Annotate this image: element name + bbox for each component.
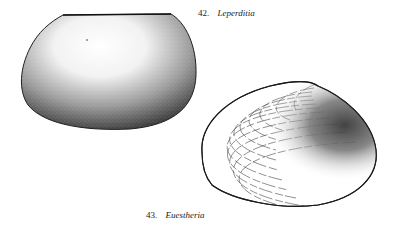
leperditia-shell	[21, 14, 196, 129]
illustration-canvas	[0, 0, 395, 229]
fossil-illustration-plate: 42. Leperditia 43. Euestheria	[0, 0, 395, 229]
figure-number: 42.	[198, 8, 209, 18]
euestheria-shell	[202, 82, 376, 213]
taxon-name: Leperditia	[218, 8, 255, 18]
caption-leperditia: 42. Leperditia	[198, 8, 255, 18]
taxon-name: Euestheria	[166, 210, 205, 220]
figure-number: 43.	[146, 210, 157, 220]
caption-euestheria: 43. Euestheria	[146, 210, 205, 220]
